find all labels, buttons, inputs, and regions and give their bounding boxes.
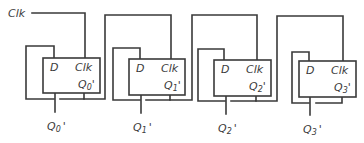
- ff1-q-label: Q1': [164, 79, 181, 93]
- ff3-qbar-wire: [316, 97, 342, 103]
- ff2-output-label: Q2': [218, 122, 237, 136]
- ff3-d-label: D: [306, 64, 314, 77]
- ff0-clk-label: Clk: [75, 61, 93, 74]
- clock-input-label: Clk: [8, 7, 26, 20]
- ff0-d-label: D: [50, 61, 58, 74]
- ff0-q-label: Q0': [78, 78, 95, 92]
- clock-input-wire: [32, 13, 85, 58]
- ripple-counter-diagram: Clk D Clk Q0' Q0' D Clk Q1' Q1' D Clk Q2…: [0, 0, 364, 143]
- ff1-d-label: D: [136, 62, 144, 75]
- ff2-d-label: D: [221, 63, 229, 76]
- ff2-q-label: Q2': [249, 80, 266, 94]
- ff0-output-label: Q0': [47, 120, 66, 134]
- ff3-clk-label: Clk: [331, 64, 349, 77]
- ff3-output-label: Q3': [303, 123, 322, 137]
- ff1-clk-label: Clk: [161, 62, 179, 75]
- ff3-q-label: Q3': [334, 81, 351, 95]
- ff2-clk-label: Clk: [246, 63, 264, 76]
- ff1-output-label: Q1': [133, 121, 152, 135]
- flip-flop-3: D Clk Q3' Q3': [292, 52, 356, 137]
- ff0-qbar-wire: [60, 93, 84, 99]
